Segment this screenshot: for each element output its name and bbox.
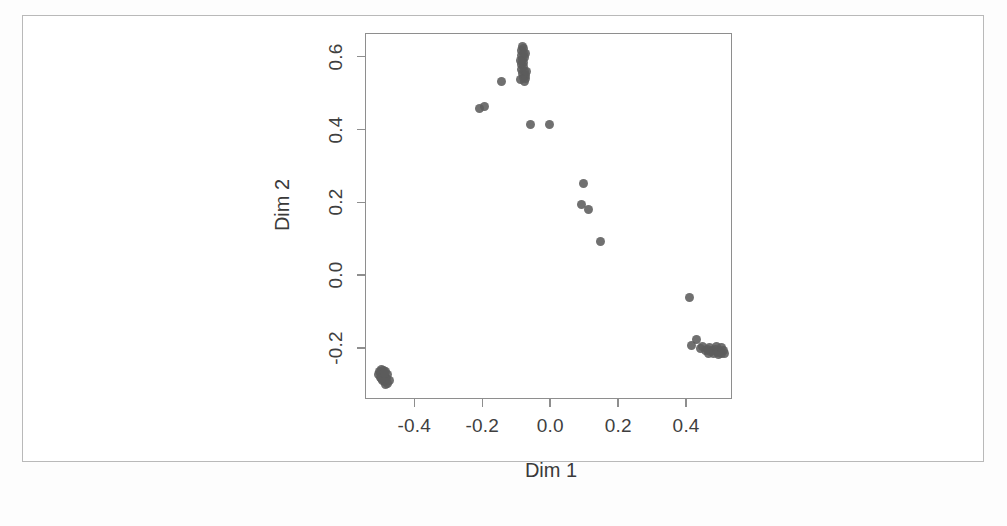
y-tick-label: -0.2: [325, 331, 347, 365]
data-point: [579, 179, 588, 188]
scatter-plot-figure: -0.20.00.20.40.6 -0.4-0.20.00.20.4 Dim 2…: [0, 0, 1007, 526]
data-point: [480, 102, 489, 111]
y-tick-mark: [357, 202, 365, 203]
data-point: [497, 77, 506, 86]
x-axis-title: Dim 1: [525, 459, 577, 482]
data-point: [520, 77, 529, 86]
data-point: [380, 369, 389, 378]
y-tick-label: 0.0: [325, 262, 347, 289]
y-tick-label: 0.2: [325, 189, 347, 216]
y-tick-mark: [357, 129, 365, 130]
figure-page: -0.20.00.20.40.6 -0.4-0.20.00.20.4 Dim 2…: [0, 0, 1007, 526]
data-point: [685, 293, 694, 302]
y-axis-title: Dim 2: [271, 179, 294, 231]
x-tick-label: -0.2: [465, 415, 499, 437]
plot-data-area: [365, 33, 732, 399]
x-tick-label: 0.0: [537, 415, 564, 437]
data-point: [545, 120, 554, 129]
data-point: [720, 349, 729, 358]
x-tick-label: 0.4: [673, 415, 700, 437]
y-tick-mark: [357, 56, 365, 57]
x-tick-label: -0.4: [397, 415, 431, 437]
x-tick-mark: [549, 399, 550, 407]
data-point: [584, 205, 593, 214]
x-tick-mark: [617, 399, 618, 407]
data-point: [522, 67, 531, 76]
data-point: [687, 341, 696, 350]
x-tick-label: 0.2: [605, 415, 632, 437]
data-point: [526, 120, 535, 129]
x-tick-mark: [685, 399, 686, 407]
data-point: [596, 237, 605, 246]
x-tick-mark: [414, 399, 415, 407]
data-point: [521, 49, 530, 58]
y-tick-mark: [357, 347, 365, 348]
y-tick-label: 0.4: [325, 116, 347, 143]
x-tick-mark: [482, 399, 483, 407]
y-tick-mark: [357, 274, 365, 275]
y-tick-label: 0.6: [325, 43, 347, 70]
